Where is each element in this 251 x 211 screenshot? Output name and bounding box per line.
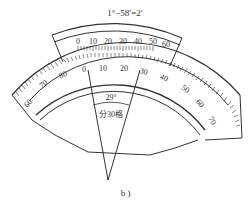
figure-caption: b ) xyxy=(0,188,251,198)
svg-text:80: 80 xyxy=(57,69,68,81)
svg-text:70: 70 xyxy=(37,78,49,90)
svg-text:0: 0 xyxy=(76,37,80,46)
svg-text:50: 50 xyxy=(180,83,192,95)
svg-text:60: 60 xyxy=(194,97,206,109)
svg-text:20: 20 xyxy=(120,64,128,73)
division-annotation: 分30格 xyxy=(99,109,123,119)
svg-text:20: 20 xyxy=(104,37,112,46)
svg-text:70: 70 xyxy=(206,115,218,126)
svg-text:30: 30 xyxy=(119,37,127,46)
svg-text:40: 40 xyxy=(159,72,170,84)
pointer-right xyxy=(108,70,140,180)
right-edge xyxy=(240,95,242,138)
vernier-protractor-diagram: 1°−58′=2′ 0 10 20 30 40 50 60 60 70 80 0… xyxy=(0,0,251,211)
svg-text:40: 40 xyxy=(134,37,142,46)
svg-text:10: 10 xyxy=(99,64,107,73)
svg-text:30: 30 xyxy=(139,66,149,77)
svg-text:10: 10 xyxy=(89,37,97,46)
angle-annotation: 29° xyxy=(105,93,116,102)
formula-label: 1°−58′=2′ xyxy=(107,8,143,18)
svg-text:60: 60 xyxy=(22,97,34,109)
svg-text:50: 50 xyxy=(149,37,157,46)
svg-text:60: 60 xyxy=(162,40,170,49)
svg-text:0: 0 xyxy=(82,65,86,74)
lower-outline xyxy=(32,120,198,155)
